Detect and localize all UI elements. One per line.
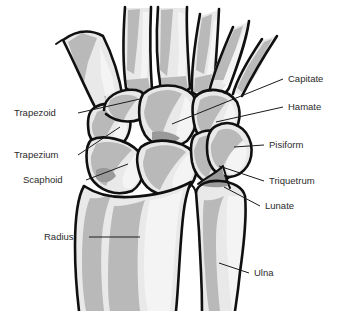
label-scaphoid: Scaphoid <box>23 175 63 185</box>
bone-scaphoid <box>87 137 144 193</box>
wrist-bone-diagram: Trapezoid Trapezium Scaphoid Radius Capi… <box>0 0 343 311</box>
bone-capitate <box>139 86 197 147</box>
label-radius: Radius <box>44 232 74 242</box>
bone-metacarpal-3 <box>157 7 190 95</box>
label-hamate: Hamate <box>288 102 321 112</box>
label-trapezoid: Trapezoid <box>14 108 56 118</box>
label-lunate: Lunate <box>265 201 294 211</box>
label-trapezium: Trapezium <box>14 150 59 160</box>
label-triquetrum: Triquetrum <box>269 176 315 186</box>
bone-radius <box>75 182 191 311</box>
label-ulna: Ulna <box>254 268 274 278</box>
bone-ulna <box>196 166 246 311</box>
bone-metacarpal-2 <box>123 7 152 96</box>
label-pisiform: Pisiform <box>269 140 303 150</box>
label-capitate: Capitate <box>288 74 323 84</box>
